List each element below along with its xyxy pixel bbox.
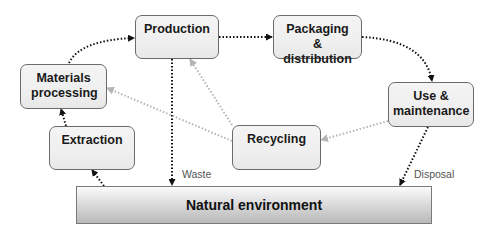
node-production-label: Production <box>144 22 210 36</box>
arrow-packaging-to-use <box>362 37 432 81</box>
node-recycling: Recycling <box>232 125 321 170</box>
arrow-use-to-recycling <box>321 121 388 140</box>
node-recycling-label: Recycling <box>247 132 306 146</box>
arrow-materials-to-production <box>69 38 134 63</box>
arrow-extraction-to-materials <box>61 109 66 126</box>
node-environment-label: Natural environment <box>186 197 322 213</box>
edge-label-disposal: Disposal <box>414 168 454 180</box>
node-materials-processing: Materials processing <box>20 64 107 109</box>
node-packaging-distribution: Packaging & distribution <box>273 15 362 59</box>
node-use-maintenance: Use & maintenance <box>388 82 474 127</box>
node-extraction-label: Extraction <box>61 133 122 147</box>
node-use-label: Use & maintenance <box>389 89 473 119</box>
node-extraction: Extraction <box>49 126 135 170</box>
arrow-recycling-to-production <box>190 59 232 125</box>
node-production: Production <box>135 15 219 59</box>
node-packaging-label: Packaging & distribution <box>274 22 361 67</box>
node-materials-label: Materials processing <box>21 71 106 101</box>
edge-label-waste: Waste <box>182 168 211 180</box>
node-natural-environment: Natural environment <box>76 186 432 224</box>
arrow-environment-to-extraction <box>92 170 104 186</box>
